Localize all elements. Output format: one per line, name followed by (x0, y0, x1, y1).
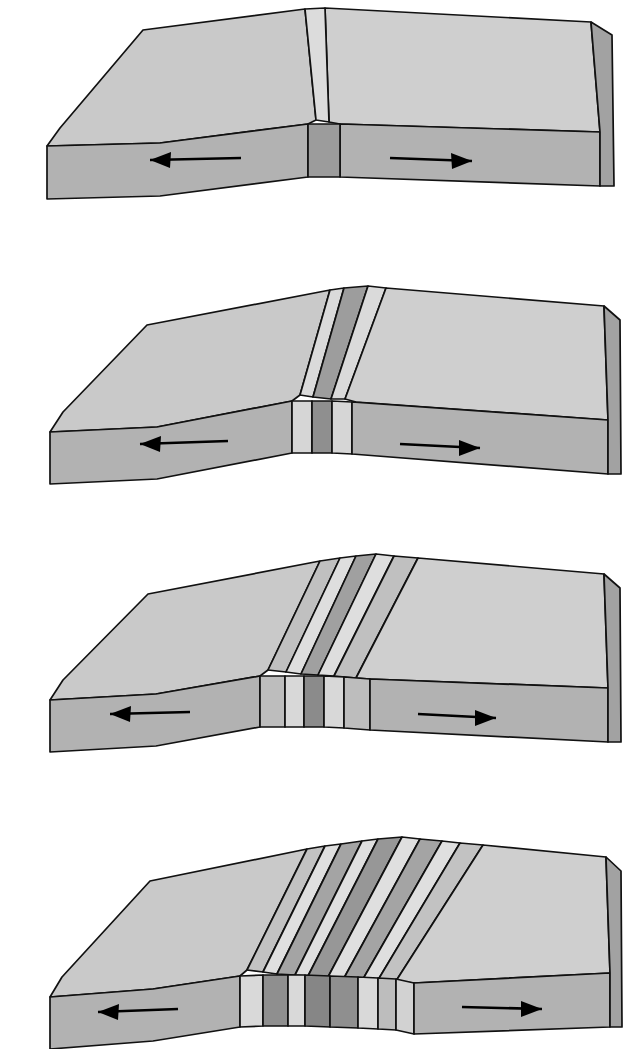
panel-stage-2 (0, 262, 628, 524)
front-band-left-1-light (288, 975, 305, 1026)
front-band-right-3-medium (378, 978, 396, 1030)
front-band-center-dark (312, 401, 332, 453)
panel-stage-4 (0, 787, 628, 1049)
front-band-left-1-light (285, 676, 304, 727)
right-plate-front-face (370, 679, 608, 742)
front-band-right-2-light (358, 977, 378, 1029)
panel-2-drawing (0, 262, 628, 524)
panel-4-drawing (0, 787, 628, 1049)
panel-stage-1 (0, 0, 628, 262)
rift-block-front-face (308, 124, 340, 177)
panel-stage-3 (0, 524, 628, 786)
right-plate-front-face (340, 124, 600, 186)
left-plate-top-surface (47, 9, 316, 146)
front-band-left-2-medium (260, 676, 285, 727)
front-band-left-3-light (240, 975, 263, 1027)
front-band-right-2-medium (344, 677, 370, 730)
front-band-center-darkest (305, 975, 330, 1027)
front-band-right-1-dark (330, 976, 358, 1028)
panel-3-drawing (0, 524, 628, 786)
front-band-right-4-light (396, 979, 414, 1034)
front-band-right-light (332, 401, 352, 454)
right-plate-top-surface (325, 8, 600, 132)
right-plate-top-surface (345, 288, 608, 420)
seafloor-spreading-figure: Seafloor spreading at a mid-ocean ridge … (0, 0, 628, 1049)
front-band-center-darkest (304, 676, 324, 727)
front-band-right-1-light (324, 676, 344, 728)
front-band-left-2-dark (263, 975, 288, 1026)
panel-1-drawing (0, 0, 628, 262)
front-band-left-light (292, 401, 312, 453)
right-plate-front-face (414, 973, 610, 1034)
